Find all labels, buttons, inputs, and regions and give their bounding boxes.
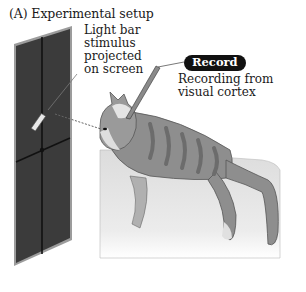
stimulus-label-line: on screen [84, 63, 143, 76]
projection-screen [14, 26, 72, 266]
recording-label-line: visual cortex [178, 86, 273, 99]
stimulus-label: Light bar stimulus projected on screen [84, 24, 143, 76]
experimental-setup-illustration [0, 0, 306, 292]
record-badge: Record [184, 55, 246, 71]
figure-title: (A) Experimental setup [9, 6, 154, 21]
recording-label: Recording from visual cortex [178, 73, 273, 99]
